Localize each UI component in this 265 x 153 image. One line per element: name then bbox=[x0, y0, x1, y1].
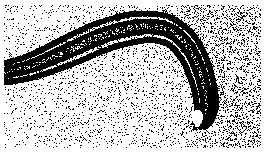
micrograph-figure: banded filamentous structure Long S-curv… bbox=[0, 0, 265, 153]
micrograph-image bbox=[0, 0, 265, 153]
